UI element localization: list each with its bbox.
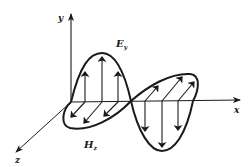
magnetic-field-symbol: H [83, 139, 94, 150]
y-axis-label: y [57, 13, 64, 23]
svg-text:Ey: Ey [115, 38, 128, 51]
magnetic-vector-front [84, 102, 102, 123]
magnetic-field-label: Hz [83, 139, 97, 151]
svg-text:Hz: Hz [83, 139, 97, 151]
z-axis-label: z [14, 155, 21, 165]
em-wave-diagram: y x z Ey Hz [0, 0, 251, 167]
magnetic-field-subscript: z [92, 144, 97, 151]
magnetic-vector-back [162, 77, 182, 101]
z-axis [16, 102, 71, 152]
axes [16, 14, 240, 152]
x-axis-label: x [233, 105, 240, 115]
magnetic-vector-front [71, 102, 85, 117]
x-axis [71, 100, 240, 102]
magnetic-vector-back [178, 82, 194, 101]
electric-field-subscript: y [123, 43, 128, 51]
electric-field-label: Ey [115, 38, 128, 51]
